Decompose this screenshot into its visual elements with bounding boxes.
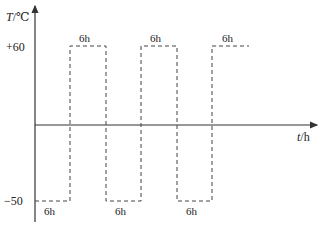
segment-label-low-1: 6h bbox=[44, 205, 56, 217]
segment-label-low-3: 6h bbox=[186, 205, 198, 217]
x-axis-label: t/h bbox=[297, 130, 310, 144]
segment-label-low-2: 6h bbox=[115, 205, 127, 217]
segment-label-high-1: 6h bbox=[79, 32, 91, 44]
temperature-cycle-chart: T/℃ t/h +60 −50 6h 6h 6h 6h 6h 6h bbox=[0, 0, 323, 230]
y-tick-low: −50 bbox=[4, 194, 23, 208]
segment-label-high-2: 6h bbox=[150, 32, 162, 44]
y-tick-high: +60 bbox=[6, 40, 25, 54]
segment-label-high-3: 6h bbox=[222, 32, 234, 44]
temperature-cycle-line bbox=[35, 46, 249, 201]
y-axis-label: T/℃ bbox=[6, 10, 29, 24]
